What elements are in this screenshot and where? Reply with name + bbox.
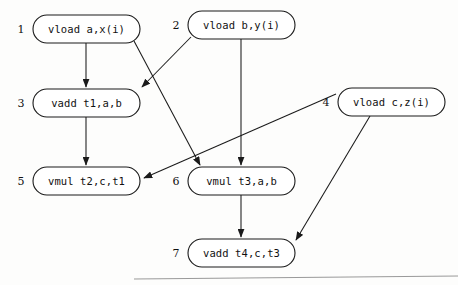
edge-1-to-6 xyxy=(134,41,200,165)
node-5[interactable]: vmul t2,c,t15 xyxy=(18,167,141,195)
node-label: vmul t3,a,b xyxy=(206,175,277,187)
edge-2-to-3 xyxy=(142,37,191,87)
node-index: 5 xyxy=(18,175,25,188)
node-index: 3 xyxy=(18,97,25,110)
node-label: vload b,y(i) xyxy=(203,19,280,31)
node-4[interactable]: vload c,z(i)4 xyxy=(323,88,446,116)
page-rule xyxy=(134,276,458,279)
node-index: 6 xyxy=(173,175,180,188)
node-index: 1 xyxy=(18,23,25,36)
node-index: 7 xyxy=(173,247,180,260)
edges-layer xyxy=(86,37,370,240)
node-index: 4 xyxy=(323,96,330,109)
node-2[interactable]: vload b,y(i)2 xyxy=(173,11,296,39)
node-label: vadd t4,c,t3 xyxy=(203,247,280,259)
dependence-graph-figure: vload a,x(i)1vload b,y(i)2vadd t1,a,b3vl… xyxy=(0,0,458,285)
node-7[interactable]: vadd t4,c,t37 xyxy=(173,239,296,267)
node-label: vload a,x(i) xyxy=(48,23,125,35)
node-label: vload c,z(i) xyxy=(353,96,430,108)
graph-canvas: vload a,x(i)1vload b,y(i)2vadd t1,a,b3vl… xyxy=(0,0,458,285)
node-3[interactable]: vadd t1,a,b3 xyxy=(18,89,141,117)
node-label: vmul t2,c,t1 xyxy=(48,175,125,187)
nodes-layer: vload a,x(i)1vload b,y(i)2vadd t1,a,b3vl… xyxy=(18,11,446,267)
edge-4-to-7 xyxy=(296,116,370,240)
node-6[interactable]: vmul t3,a,b6 xyxy=(173,167,296,195)
node-index: 2 xyxy=(173,19,180,32)
node-label: vadd t1,a,b xyxy=(51,97,122,109)
node-1[interactable]: vload a,x(i)1 xyxy=(18,15,141,43)
edge-4-to-5 xyxy=(144,94,336,178)
